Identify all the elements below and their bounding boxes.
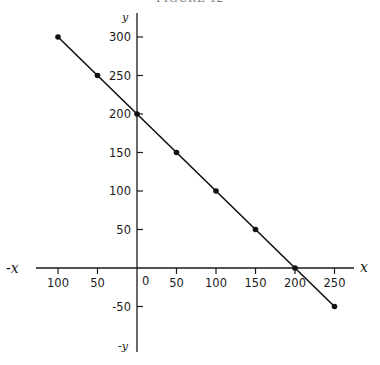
data-point: [55, 34, 61, 40]
data-point: [95, 73, 101, 79]
x-tick-label: 100: [47, 276, 69, 290]
y-axis-label: y: [121, 11, 129, 24]
origin-label: 0: [142, 274, 149, 288]
data-point: [174, 150, 180, 156]
y-tick-label: 50: [116, 223, 131, 237]
y-tick-label: 100: [109, 184, 131, 198]
x-axis-label: x: [360, 259, 368, 275]
x-tick-label: 50: [90, 276, 105, 290]
data-point: [253, 227, 259, 233]
x-tick-label: 250: [324, 276, 346, 290]
data-point: [292, 265, 298, 271]
x-tick-label: 100: [205, 276, 227, 290]
y-tick-label: 300: [109, 30, 131, 44]
y-tick-label: -50: [112, 300, 131, 314]
data-point: [213, 188, 219, 194]
axis-labels: x-xy-y0: [6, 11, 368, 353]
axes: [36, 13, 354, 352]
neg-y-axis-label: -y: [118, 340, 129, 353]
x-tick-label: 200: [284, 276, 306, 290]
data-point: [134, 111, 140, 117]
x-tick-label: 50: [169, 276, 184, 290]
y-tick-label: 250: [109, 69, 131, 83]
x-tick-label: 150: [245, 276, 267, 290]
neg-x-axis-label: -x: [6, 260, 19, 276]
y-tick-label: 150: [109, 146, 131, 160]
y-tick-label: 200: [109, 107, 131, 121]
data-point: [332, 304, 338, 310]
line-chart: 100505010015020025030025020015010050-50 …: [0, 0, 380, 365]
